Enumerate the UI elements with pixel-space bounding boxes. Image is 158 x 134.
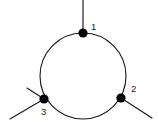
graph-diagram-svg: 1 2 3 <box>0 0 158 134</box>
node-2-dot[interactable] <box>116 93 125 102</box>
node-3-label: 3 <box>41 106 46 117</box>
node-2-label: 2 <box>131 83 136 94</box>
edge-group <box>10 0 152 119</box>
pendant-edge-node3-downleft <box>10 99 44 119</box>
diagram-canvas: 1 2 3 <box>0 0 158 134</box>
circle-cycle-edge <box>40 33 126 119</box>
node-3-dot[interactable] <box>39 94 48 103</box>
node-1-dot[interactable] <box>78 28 87 37</box>
node-1-label: 1 <box>91 21 96 32</box>
pendant-edge-node2-downright <box>121 98 152 118</box>
node-group <box>39 28 125 103</box>
